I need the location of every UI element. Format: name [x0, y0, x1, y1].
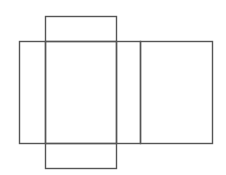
- bottom-flap: [46, 144, 117, 169]
- box-net-diagram: [0, 0, 226, 175]
- right-side: [117, 42, 141, 144]
- top-flap: [46, 17, 117, 42]
- left-side: [20, 42, 46, 144]
- back-face: [141, 42, 213, 144]
- front-face: [46, 42, 117, 144]
